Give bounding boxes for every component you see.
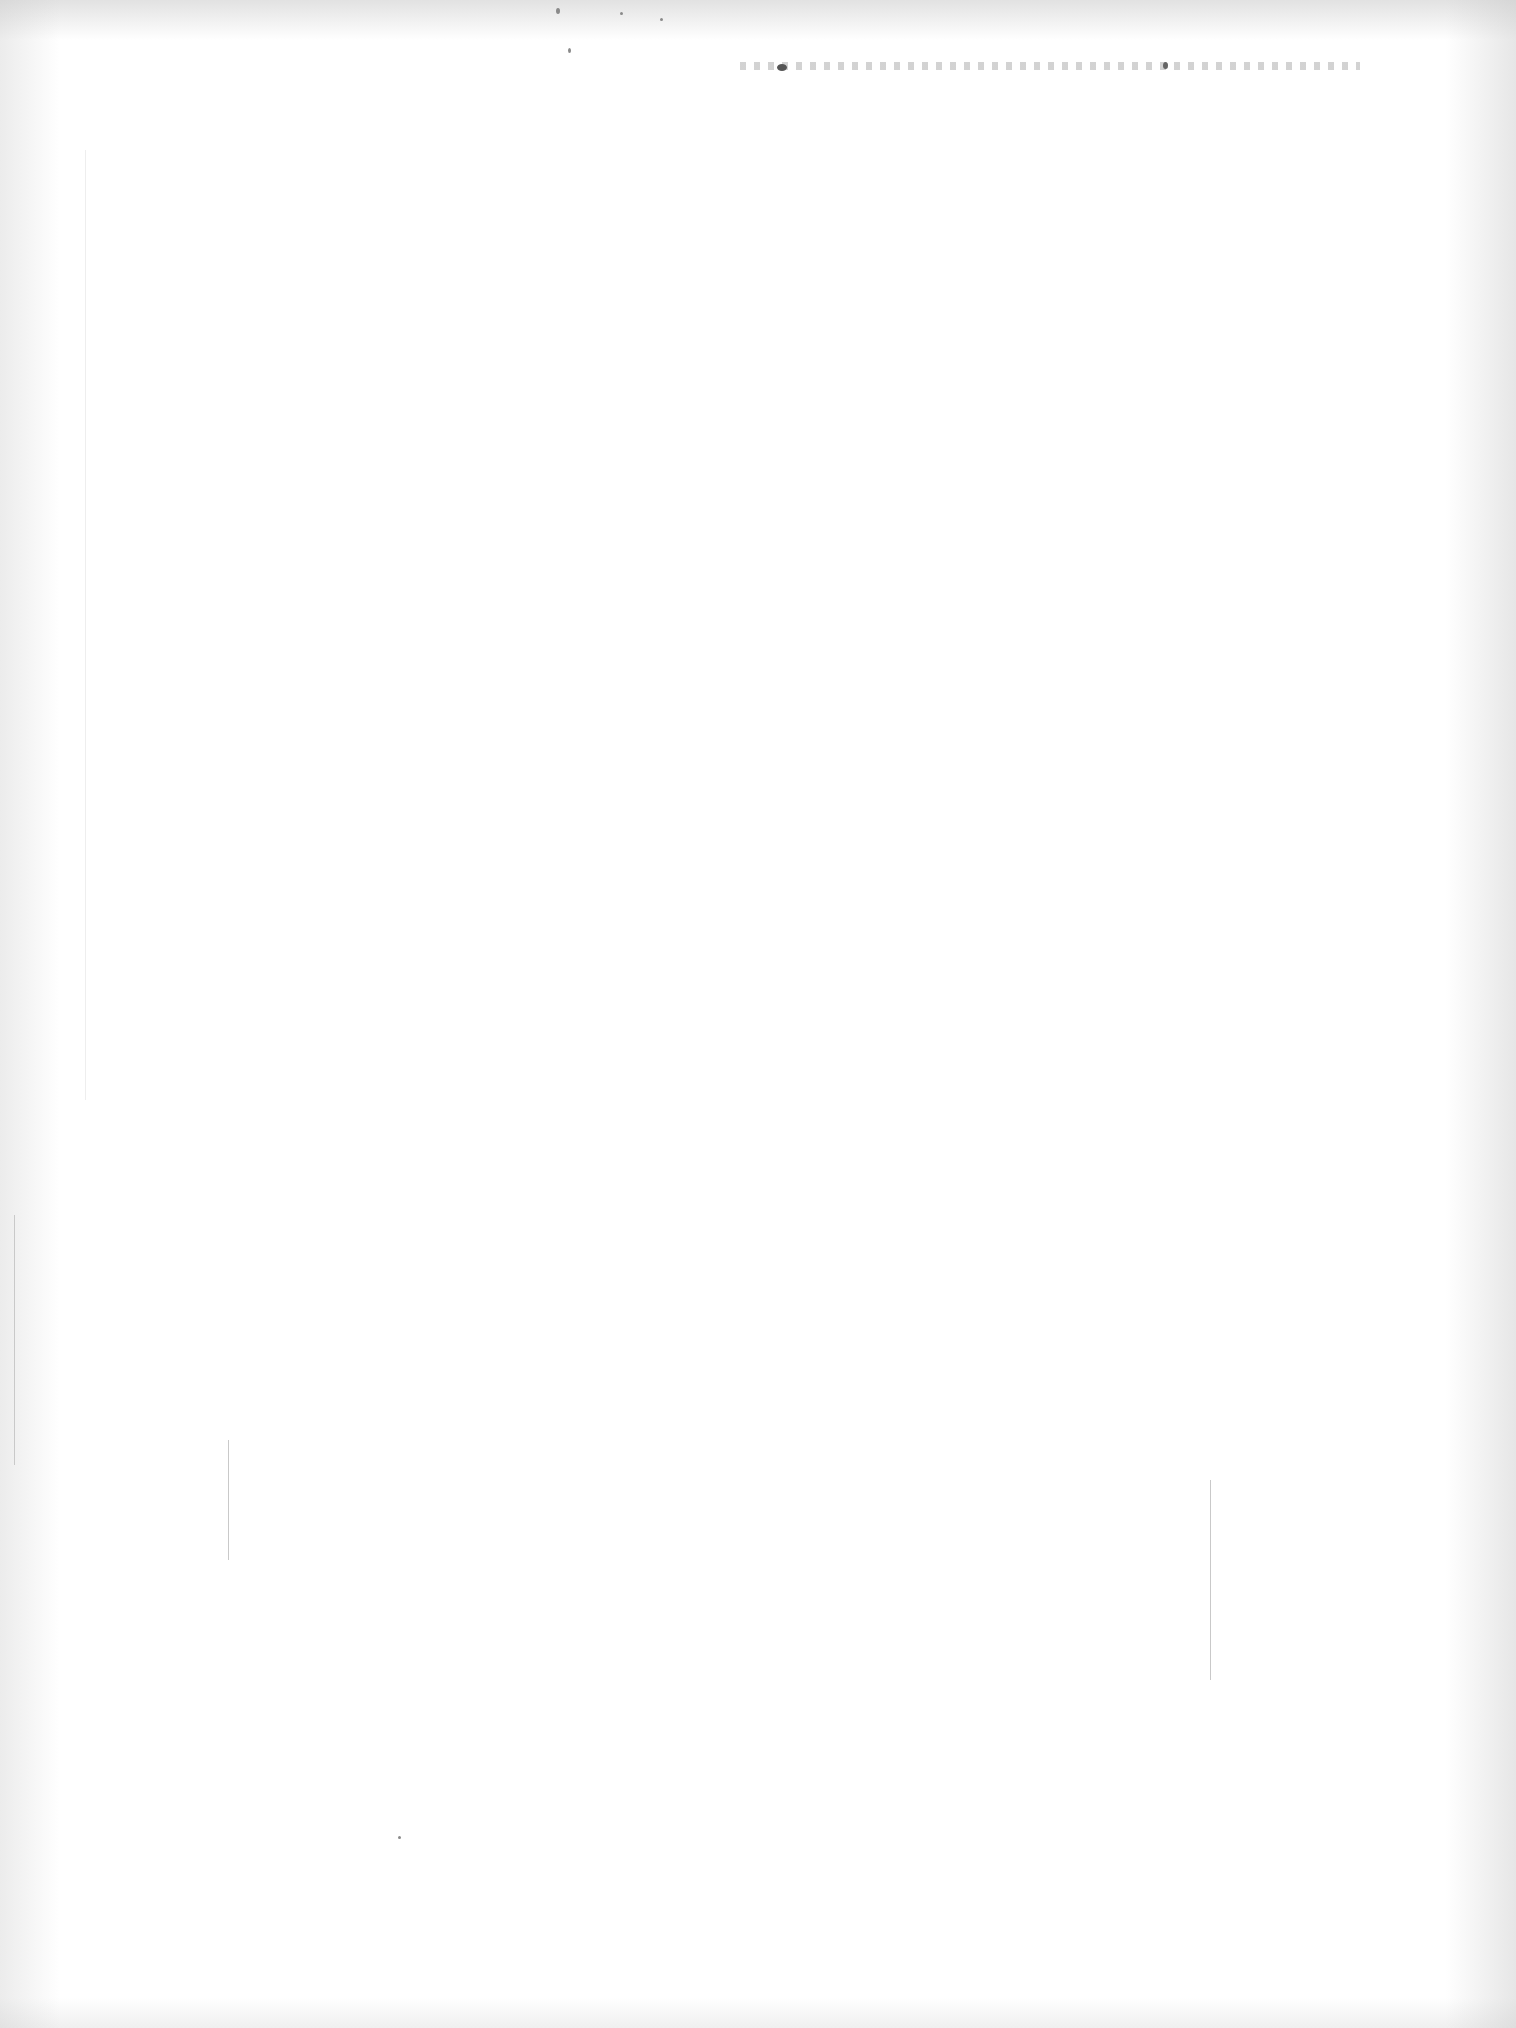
scan-speck	[660, 18, 663, 21]
scan-speck	[777, 64, 787, 71]
scan-speck	[620, 12, 623, 15]
scan-line	[85, 150, 86, 1100]
scan-speck	[568, 48, 571, 53]
scan-line	[14, 1215, 15, 1465]
scan-line	[228, 1440, 229, 1560]
scan-speck	[1163, 62, 1168, 69]
scan-speck	[398, 1836, 401, 1839]
scan-line	[1210, 1480, 1211, 1680]
scan-speck	[556, 8, 560, 14]
bleed-through-marks	[740, 62, 1360, 70]
blank-scanned-page	[0, 0, 1516, 2028]
